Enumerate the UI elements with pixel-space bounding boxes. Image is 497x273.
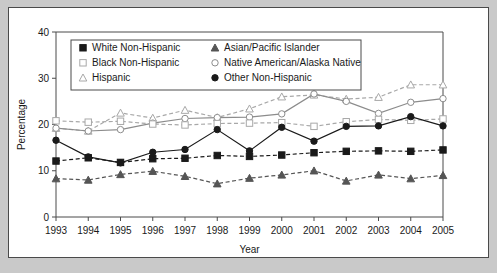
svg-text:1994: 1994 [77,225,100,236]
svg-text:2005: 2005 [432,225,455,236]
svg-text:2003: 2003 [367,225,390,236]
data-point-marker [375,148,381,154]
figure-panel: 0102030401993199419951996199719981999200… [8,7,489,258]
svg-text:Percentage: Percentage [16,98,27,150]
data-point-marker [279,124,285,130]
data-point-marker [150,121,156,127]
svg-text:1998: 1998 [206,225,229,236]
data-point-marker [117,126,123,132]
data-point-marker [279,152,285,158]
data-point-marker [53,118,59,124]
data-point-marker [150,156,156,162]
data-point-marker [375,116,381,122]
legend-label: White Non-Hispanic [92,42,180,53]
legend-label: Asian/Pacific Islander [224,42,320,53]
svg-text:2001: 2001 [303,225,326,236]
data-point-marker [214,152,220,158]
data-point-marker [80,60,86,66]
svg-text:10: 10 [38,165,50,176]
data-point-marker [212,75,218,81]
data-point-marker [408,148,414,154]
data-point-marker [343,98,349,104]
data-point-marker [117,160,123,166]
data-point-marker [440,123,446,129]
svg-text:40: 40 [38,27,50,38]
svg-text:1999: 1999 [238,225,261,236]
legend-label: Other Non-Hispanic [224,72,312,83]
svg-text:2000: 2000 [271,225,294,236]
legend-label: Black Non-Hispanic [92,57,179,68]
data-point-marker [246,105,254,112]
chart-legend: White Non-HispanicBlack Non-HispanicHisp… [71,40,361,90]
data-point-marker [311,91,317,97]
svg-text:0: 0 [43,212,49,223]
figure-root: 0102030401993199419951996199719981999200… [0,0,497,273]
svg-text:1997: 1997 [174,225,197,236]
svg-text:30: 30 [38,73,50,84]
data-point-marker [375,123,381,129]
data-point-marker [408,113,414,119]
data-point-marker [214,126,220,132]
data-point-marker [375,171,383,178]
data-point-marker [440,95,446,101]
data-point-marker [375,110,381,116]
line-chart: 0102030401993199419951996199719981999200… [9,8,490,259]
data-point-marker [311,138,317,144]
data-point-marker [85,154,91,160]
data-point-marker [182,115,188,121]
data-point-marker [440,116,446,122]
data-point-marker [53,137,59,143]
data-point-marker [117,118,123,124]
data-point-marker [85,128,91,134]
svg-text:20: 20 [38,119,50,130]
data-point-marker [311,123,317,129]
y-axis-ticks: 010203040 [38,27,56,223]
data-point-marker [310,167,318,174]
data-point-marker [212,60,218,66]
data-point-marker [53,125,59,131]
legend-label: Native American/Alaska Native [224,57,361,68]
data-point-marker [408,99,414,105]
data-point-marker [246,114,252,120]
data-point-marker [246,148,252,154]
svg-text:1996: 1996 [142,225,165,236]
svg-text:1993: 1993 [45,225,68,236]
data-point-marker [182,146,188,152]
data-point-marker [440,147,446,153]
data-point-marker [311,150,317,156]
data-point-marker [182,155,188,161]
data-point-marker [246,120,252,126]
data-point-marker [214,114,220,120]
legend-label: Hispanic [92,72,130,83]
svg-text:2004: 2004 [400,225,423,236]
series-native-american-alaska-native [53,91,446,134]
data-point-marker [80,45,86,51]
data-point-marker [182,122,188,128]
data-point-marker [117,109,125,116]
data-point-marker [214,120,220,126]
x-axis-ticks: 1993199419951996199719981999200020012002… [45,217,455,236]
data-point-marker [85,119,91,125]
data-point-marker [279,111,285,117]
data-point-marker [181,106,189,113]
series-asian-pacific-islander [52,167,447,187]
data-point-marker [53,158,59,164]
svg-text:Year: Year [239,244,260,255]
svg-text:2002: 2002 [335,225,358,236]
data-point-marker [150,149,156,155]
svg-text:1995: 1995 [109,225,132,236]
data-point-marker [343,123,349,129]
data-point-marker [343,148,349,154]
